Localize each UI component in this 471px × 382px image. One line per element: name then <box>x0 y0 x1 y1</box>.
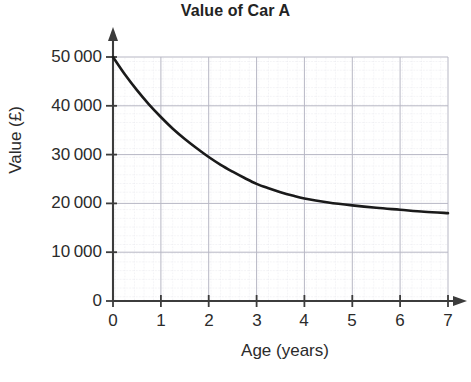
x-tick-label-7: 7 <box>433 311 463 331</box>
x-tick-label-3: 3 <box>242 311 272 331</box>
y-tick-label-10000: 10 000 <box>8 242 102 262</box>
x-tick-label-1: 1 <box>146 311 176 331</box>
y-tick-label-50000: 50 000 <box>8 47 102 67</box>
y-tick-label-0: 0 <box>8 291 102 311</box>
x-tick-label-4: 4 <box>289 311 319 331</box>
x-tick-label-5: 5 <box>337 311 367 331</box>
x-tick-label-6: 6 <box>385 311 415 331</box>
minor-gridlines <box>113 57 448 301</box>
chart-container: Value of Car A <box>0 0 471 382</box>
x-tick-label-0: 0 <box>98 311 128 331</box>
x-tick-label-2: 2 <box>194 311 224 331</box>
x-axis-label: Age (years) <box>120 341 450 361</box>
y-axis-label: Value (£) <box>6 70 26 210</box>
